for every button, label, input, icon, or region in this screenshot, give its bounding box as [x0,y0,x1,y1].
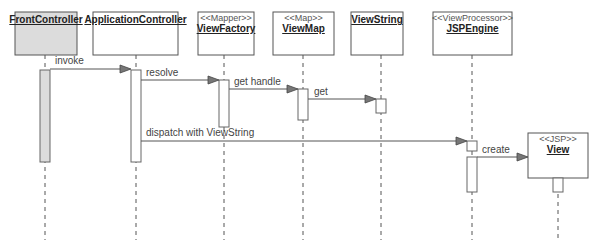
participant-name: View [547,144,570,155]
message-dispatch-with-viewstring[interactable]: dispatch with ViewString [141,127,467,145]
participant-name: ViewMap [282,23,325,34]
message-get-handle[interactable]: get handle [229,76,298,93]
message-resolve[interactable]: resolve [141,67,219,84]
message-label: dispatch with ViewString [146,127,254,138]
message-label: resolve [146,67,179,78]
participant-name: ApplicationController [84,14,186,25]
participant-name: ViewFactory [197,23,256,34]
message-get[interactable]: get [308,86,376,103]
participant-stereotype: <<ViewProcessor>> [432,13,513,23]
activation-application-controller [131,70,141,162]
participant-name: FrontController [9,14,82,25]
participant-stereotype: <<JSP>> [539,134,577,144]
activation-jsp-engine-2 [467,157,477,192]
message-invoke[interactable]: invoke [50,55,131,73]
activation-view-factory [219,80,229,127]
participant-name: ViewString [351,14,403,25]
participant-view[interactable]: <<JSP>> View [528,133,588,178]
activation-view [553,178,563,192]
participant-view-factory[interactable]: <<Mapper>> ViewFactory [197,12,256,55]
message-label: invoke [55,55,84,66]
activation-front-controller [40,70,50,162]
participant-jsp-engine[interactable]: <<ViewProcessor>> JSPEngine [432,12,513,55]
sequence-diagram: FrontController ApplicationController <<… [0,0,602,249]
participant-view-map[interactable]: <<Map>> ViewMap [273,12,334,55]
message-create[interactable]: create [477,144,528,161]
participant-view-string[interactable]: ViewString [351,12,403,55]
participant-stereotype: <<Mapper>> [200,13,252,23]
activation-view-map [298,89,308,120]
message-label: get handle [234,76,281,87]
participant-stereotype: <<Map>> [284,13,323,23]
participant-application-controller[interactable]: ApplicationController [84,12,186,55]
activation-view-string [376,99,386,113]
message-label: create [482,144,510,155]
participant-front-controller[interactable]: FrontController [9,12,82,55]
participant-name: JSPEngine [446,23,499,34]
activation-jsp-engine-1 [467,141,477,151]
message-label: get [314,86,328,97]
